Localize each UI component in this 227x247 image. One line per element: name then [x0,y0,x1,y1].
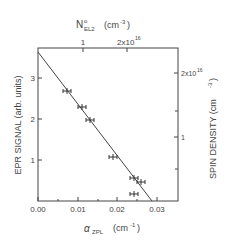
svg-text:0.03: 0.03 [149,205,165,214]
svg-text:): ) [137,223,140,233]
svg-text:1: 1 [31,156,36,165]
x-tick-labels: 0.00 0.01 0.02 0.03 [30,205,165,214]
data-point [78,104,86,110]
data-point [86,117,94,123]
svg-text:α: α [84,223,90,234]
svg-text:ZPL: ZPL [92,229,104,235]
y-axis-title: EPR SIGNAL (arb. units) [13,75,23,174]
svg-text:-1: -1 [130,222,136,228]
svg-text:SPIN DENSITY (cm: SPIN DENSITY (cm [208,99,218,179]
x-ticks [38,197,157,201]
svg-text:o: o [84,18,88,24]
svg-text:2x10: 2x10 [117,38,135,47]
svg-text:(cm: (cm [104,20,119,30]
svg-text:1: 1 [181,134,185,141]
top-axis-title: N o EL2 (cm -3 ) [76,18,130,32]
svg-text:0.00: 0.00 [30,205,46,214]
svg-text:-3: -3 [120,19,126,25]
x-axis-title: α ZPL (cm -1 ) [84,222,140,235]
svg-text:): ) [208,78,218,81]
svg-text:1: 1 [81,38,86,47]
svg-text:2x10: 2x10 [181,70,196,77]
svg-text:2: 2 [31,115,36,124]
chart: 0.00 0.01 0.02 0.03 1 2 3 1 2x10 16 1 2x… [0,0,227,247]
right-tick-labels: 1 2x10 16 [181,67,203,141]
right-ticks [174,73,178,169]
y-tick-labels: 1 2 3 [31,74,36,165]
data-point [130,191,138,197]
right-axis-title: SPIN DENSITY (cm -3 ) [207,78,218,179]
svg-text:0.02: 0.02 [109,205,125,214]
data-point [109,154,117,160]
fit-line [38,52,152,201]
top-tick-labels: 1 2x10 16 [81,35,141,47]
data-points [63,88,145,197]
svg-text:(cm: (cm [113,223,128,233]
plot-frame [38,48,178,201]
svg-text:3: 3 [31,74,36,83]
top-ticks [83,48,127,52]
svg-text:16: 16 [197,67,203,73]
y-ticks [38,78,42,160]
svg-text:N: N [76,19,83,30]
svg-text:): ) [127,20,130,30]
svg-text:EL2: EL2 [84,26,95,32]
svg-text:0.01: 0.01 [70,205,86,214]
svg-text:-3: -3 [207,82,213,88]
svg-text:16: 16 [135,35,141,41]
